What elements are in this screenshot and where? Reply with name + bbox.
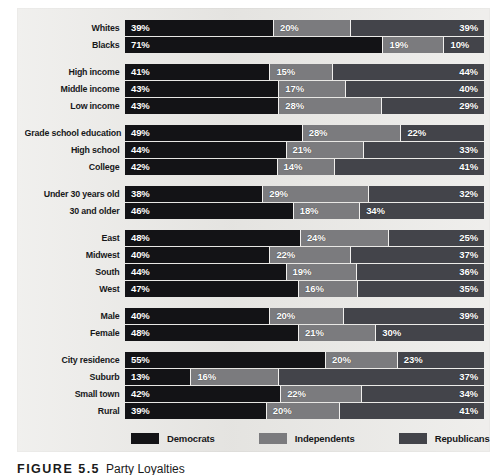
chart-row: Midwest40%22%37% [17, 247, 484, 263]
bar-segment-democrats: 38% [125, 186, 263, 202]
stacked-bar: 41%15%44% [125, 64, 484, 80]
bar-segment-democrats: 40% [125, 308, 270, 324]
legend-item-independents: Independents [259, 433, 355, 444]
bar-segment-value: 15% [270, 64, 295, 80]
row-category-label: Low income [25, 98, 125, 114]
bar-segment-value: 32% [459, 186, 484, 202]
stacked-bar: 13%16%37% [125, 369, 484, 385]
bar-segment-republicans: 41% [340, 403, 484, 419]
bar-segment-value: 46% [125, 203, 150, 219]
chart-row: South44%19%36% [17, 264, 484, 280]
stacked-bar: 71%19%10% [125, 37, 484, 53]
chart-row: Under 30 years old38%29%32% [17, 186, 484, 202]
bar-segment-value: 37% [459, 247, 484, 263]
bar-segment-value: 22% [281, 386, 306, 402]
figure-caption: FIGURE 5.5Party Loyalties [17, 462, 487, 475]
stacked-bar: 46%18%34% [125, 203, 484, 219]
bar-segment-republicans: 35% [358, 281, 484, 297]
bar-segment-democrats: 43% [125, 81, 279, 97]
bar-segment-value: 39% [125, 20, 150, 36]
bar-segment-value: 29% [263, 186, 288, 202]
bar-segment-independents: 28% [303, 125, 402, 141]
legend-item-democrats: Democrats [131, 433, 215, 444]
bar-segment-value: 39% [459, 308, 484, 324]
bar-segment-democrats: 46% [125, 203, 294, 219]
bar-segment-value: 35% [459, 281, 484, 297]
bar-segment-value: 16% [191, 369, 216, 385]
chart-row: Whites39%20%39% [17, 20, 484, 36]
row-category-label: City residence [25, 352, 125, 368]
row-category-label: High income [25, 64, 125, 80]
bar-segment-value: 42% [125, 386, 150, 402]
bar-segment-democrats: 44% [125, 264, 287, 280]
bar-segment-value: 20% [274, 20, 299, 36]
bar-group-gender: Male40%20%39%Female48%21%30% [17, 308, 484, 341]
bar-segment-democrats: 71% [125, 37, 383, 53]
bar-segment-republicans: 23% [398, 352, 484, 368]
stacked-bar: 49%28%22% [125, 125, 484, 141]
bar-segment-independents: 22% [270, 247, 351, 263]
bar-segment-value: 41% [125, 64, 150, 80]
bar-segment-republicans: 39% [351, 20, 484, 36]
bar-segment-value: 20% [326, 352, 351, 368]
bar-segment-democrats: 42% [125, 386, 281, 402]
bar-segment-value: 49% [125, 125, 150, 141]
legend-swatch-democrats [131, 433, 159, 444]
legend-label-republicans: Republicans [435, 433, 490, 444]
bar-segment-value: 34% [459, 386, 484, 402]
bar-segment-independents: 21% [287, 142, 364, 158]
row-category-label: Rural [25, 403, 125, 419]
legend-swatch-independents [259, 433, 287, 444]
bar-segment-value: 30% [376, 325, 401, 341]
stacked-bar: 39%20%41% [125, 403, 484, 419]
bar-segment-value: 44% [459, 64, 484, 80]
bar-segment-value: 24% [301, 230, 326, 246]
bar-segment-democrats: 55% [125, 352, 326, 368]
bar-segment-independents: 15% [270, 64, 333, 80]
bar-segment-democrats: 40% [125, 247, 270, 263]
bar-segment-independents: 22% [281, 386, 362, 402]
bar-group-income: High income41%15%44%Middle income43%17%4… [17, 64, 484, 114]
stacked-bar: 44%21%33% [125, 142, 484, 158]
stacked-bar: 48%21%30% [125, 325, 484, 341]
bar-segment-independents: 16% [299, 281, 358, 297]
figure-caption-number: FIGURE 5.5 [17, 462, 100, 475]
bar-segment-value: 20% [267, 403, 292, 419]
bar-segment-value: 20% [270, 308, 295, 324]
bar-segment-value: 40% [125, 247, 150, 263]
bar-segment-republicans: 40% [346, 81, 484, 97]
bar-segment-value: 22% [270, 247, 295, 263]
bar-segment-republicans: 22% [401, 125, 484, 141]
bar-segment-value: 28% [303, 125, 328, 141]
bar-segment-value: 33% [459, 142, 484, 158]
bar-segment-independents: 29% [263, 186, 369, 202]
bar-segment-value: 22% [401, 125, 426, 141]
bar-segment-value: 25% [459, 230, 484, 246]
chart-row: Small town42%22%34% [17, 386, 484, 402]
chart-row: East48%24%25% [17, 230, 484, 246]
stacked-bar: 40%22%37% [125, 247, 484, 263]
bar-segment-value: 43% [125, 98, 150, 114]
bar-segment-value: 19% [287, 264, 312, 280]
bar-segment-republicans: 41% [335, 159, 484, 175]
chart-row: High school44%21%33% [17, 142, 484, 158]
bar-segment-republicans: 37% [351, 247, 484, 263]
chart-row: Grade school education49%28%22% [17, 125, 484, 141]
bar-segment-value: 16% [299, 281, 324, 297]
bar-group-education: Grade school education49%28%22%High scho… [17, 125, 484, 175]
stacked-bar: 43%28%29% [125, 98, 484, 114]
stacked-bar: 42%22%34% [125, 386, 484, 402]
bar-segment-democrats: 49% [125, 125, 303, 141]
bar-segment-value: 34% [360, 203, 385, 219]
chart-row: West47%16%35% [17, 281, 484, 297]
bar-segment-value: 36% [459, 264, 484, 280]
bar-segment-value: 28% [279, 98, 304, 114]
stacked-bar: 55%20%23% [125, 352, 484, 368]
chart-row: Low income43%28%29% [17, 98, 484, 114]
bar-segment-independents: 20% [274, 20, 351, 36]
row-category-label: West [25, 281, 125, 297]
bar-segment-value: 39% [125, 403, 150, 419]
row-category-label: Under 30 years old [25, 186, 125, 202]
legend-item-republicans: Republicans [399, 433, 490, 444]
row-category-label: Midwest [25, 247, 125, 263]
